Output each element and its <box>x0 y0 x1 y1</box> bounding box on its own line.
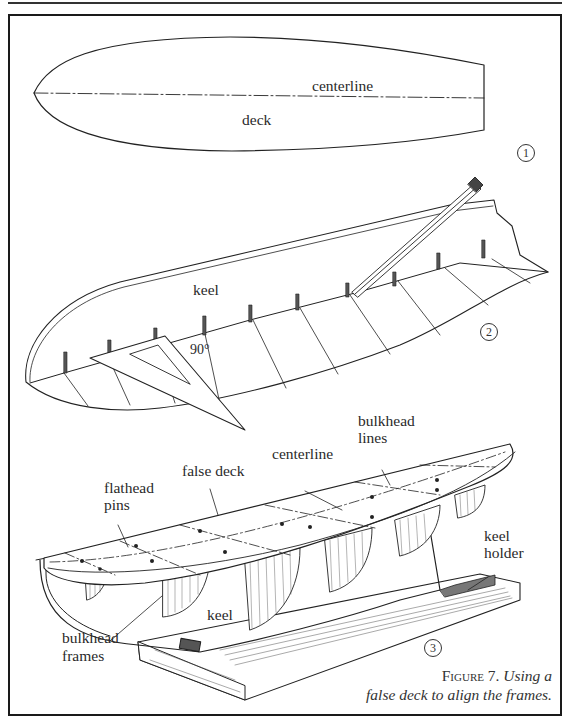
label-centerline-deck: centerline <box>312 78 373 94</box>
label-keel-panel2: keel <box>193 282 219 298</box>
label-bulkhead-lines-line1: bulkhead <box>358 413 415 429</box>
label-bulkhead-frames-line2: frames <box>62 648 104 664</box>
label-90-degrees: 90° <box>190 342 210 358</box>
caption-text-1: Using a <box>503 667 552 684</box>
label-centerline-hull: centerline <box>272 446 333 462</box>
label-flathead-pins-line1: flathead <box>104 480 154 496</box>
label-bulkhead-frames-line1: bulkhead <box>62 630 119 646</box>
caption-line-2: false deck to align the frames. <box>366 685 552 704</box>
figure-illustration <box>0 0 570 727</box>
figure-caption: Figure 7. Using a false deck to align th… <box>366 666 552 704</box>
step-number-3: 3 <box>424 639 442 657</box>
label-keel-holder-line1: keel <box>484 528 510 544</box>
deck-outline-drawing <box>34 37 484 151</box>
label-false-deck: false deck <box>182 463 244 479</box>
caption-text-2: false deck to align the frames. <box>366 686 552 703</box>
label-keel-panel3: keel <box>207 607 233 623</box>
step-number-2: 2 <box>480 323 498 341</box>
label-bulkhead-lines-line2: lines <box>358 430 387 446</box>
label-keel-holder-line2: holder <box>484 545 524 561</box>
label-deck: deck <box>242 112 271 128</box>
keel-drawing <box>26 177 548 430</box>
step-number-1: 1 <box>517 144 535 162</box>
caption-line-1: Figure 7. Using a <box>366 666 552 685</box>
figure-number: Figure 7. <box>442 667 500 684</box>
label-flathead-pins-line2: pins <box>104 497 130 513</box>
